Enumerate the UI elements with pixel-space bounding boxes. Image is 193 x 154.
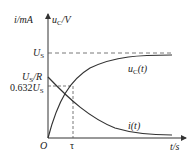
x-label: t/s [170, 142, 179, 152]
y-label-current: i/mA [14, 15, 33, 25]
i-curve-label: i(t) [128, 121, 140, 131]
i-curve [48, 77, 172, 135]
uc-curve-label: uC(t) [128, 64, 147, 77]
tick-tau: τ [70, 141, 74, 151]
y-label-voltage: uC/V [52, 15, 71, 28]
origin-label: O [40, 141, 47, 151]
tick-pct: 0.632US [10, 83, 44, 96]
rc-charging-diagram: i/mA uC/V US US/R 0.632US O τ t/s uC(t) … [0, 0, 193, 154]
tick-us: US [33, 48, 44, 61]
